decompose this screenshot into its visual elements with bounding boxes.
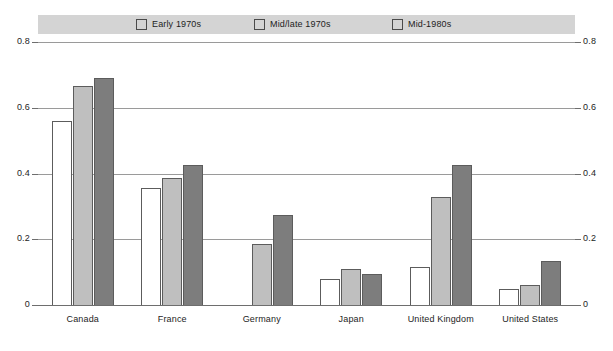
bar-germany-mid-late-1970s[interactable]: [252, 244, 272, 305]
bar-japan-mid-late-1970s[interactable]: [341, 269, 361, 305]
bar-united-states-mid-late-1970s[interactable]: [520, 285, 540, 305]
tick-mark-right-2: [575, 174, 581, 175]
gridline-0: [38, 305, 575, 306]
bar-canada-early-1970s[interactable]: [52, 121, 72, 305]
bar-japan-mid-1980s[interactable]: [362, 274, 382, 305]
x-axis-category-label-5: United States: [486, 314, 576, 324]
legend-item-mid-1980s[interactable]: Mid-1980s: [392, 19, 451, 30]
y-axis-right-tick-label-2: 0.4: [583, 169, 596, 178]
x-axis-category-label-1: France: [128, 314, 218, 324]
bar-france-mid-late-1970s[interactable]: [162, 178, 182, 305]
y-axis-left-tick-label-1: 0.6: [17, 103, 30, 112]
tick-mark-right-3: [575, 239, 581, 240]
y-axis-right-tick-label-3: 0.2: [583, 234, 596, 243]
legend-item-midlate-1970s[interactable]: Mid/late 1970s: [254, 19, 331, 30]
x-axis-category-label-0: Canada: [38, 314, 128, 324]
y-axis-right-tick-label-0: 0.8: [583, 37, 596, 46]
y-axis-left-tick-label-4: 0: [25, 300, 30, 309]
y-axis-left-tick-label-2: 0.4: [17, 169, 30, 178]
legend-label-mid-1980s: Mid-1980s: [408, 20, 451, 29]
bar-chart: Early 1970s Mid/late 1970s Mid-1980s 0.8…: [0, 0, 613, 351]
bar-united-states-early-1970s[interactable]: [499, 289, 519, 305]
legend-swatch-icon-midlate-1970s: [254, 19, 265, 30]
bar-japan-early-1970s[interactable]: [320, 279, 340, 305]
y-axis-left-tick-label-3: 0.2: [17, 234, 30, 243]
x-axis-category-label-2: Germany: [217, 314, 307, 324]
x-axis-category-label-4: United Kingdom: [396, 314, 486, 324]
tick-mark-right-1: [575, 108, 581, 109]
legend-label-midlate-1970s: Mid/late 1970s: [270, 20, 331, 29]
bar-united-states-mid-1980s[interactable]: [541, 261, 561, 305]
bar-group-germany: Germany: [217, 42, 307, 305]
bar-groups: CanadaFranceGermanyJapanUnited KingdomUn…: [38, 42, 575, 305]
plot-area: 0.80.80.60.60.40.40.20.200 CanadaFranceG…: [38, 42, 575, 305]
bar-group-france: France: [128, 42, 218, 305]
y-axis-right-tick-label-1: 0.6: [583, 103, 596, 112]
bar-germany-mid-1980s[interactable]: [273, 215, 293, 305]
bar-canada-mid-late-1970s[interactable]: [73, 86, 93, 305]
bar-united-kingdom-early-1970s[interactable]: [410, 267, 430, 305]
legend-swatch-icon-mid-1980s: [392, 19, 403, 30]
tick-mark-right-4: [575, 305, 581, 306]
bar-group-united-states: United States: [486, 42, 576, 305]
bar-group-canada: Canada: [38, 42, 128, 305]
legend-swatch-icon-early-1970s: [136, 19, 147, 30]
chart-legend: Early 1970s Mid/late 1970s Mid-1980s: [38, 15, 575, 34]
x-axis-category-label-3: Japan: [307, 314, 397, 324]
bar-united-kingdom-mid-late-1970s[interactable]: [431, 197, 451, 305]
tick-mark-right-0: [575, 42, 581, 43]
bar-united-kingdom-mid-1980s[interactable]: [452, 165, 472, 305]
tick-mark-left-4: [32, 305, 38, 306]
bar-group-japan: Japan: [307, 42, 397, 305]
legend-label-early-1970s: Early 1970s: [152, 20, 201, 29]
bar-canada-mid-1980s[interactable]: [94, 78, 114, 305]
bar-france-mid-1980s[interactable]: [183, 165, 203, 305]
bar-france-early-1970s[interactable]: [141, 188, 161, 305]
bar-group-united-kingdom: United Kingdom: [396, 42, 486, 305]
y-axis-left-tick-label-0: 0.8: [17, 37, 30, 46]
legend-item-early-1970s[interactable]: Early 1970s: [136, 19, 201, 30]
y-axis-right-tick-label-4: 0: [583, 300, 588, 309]
